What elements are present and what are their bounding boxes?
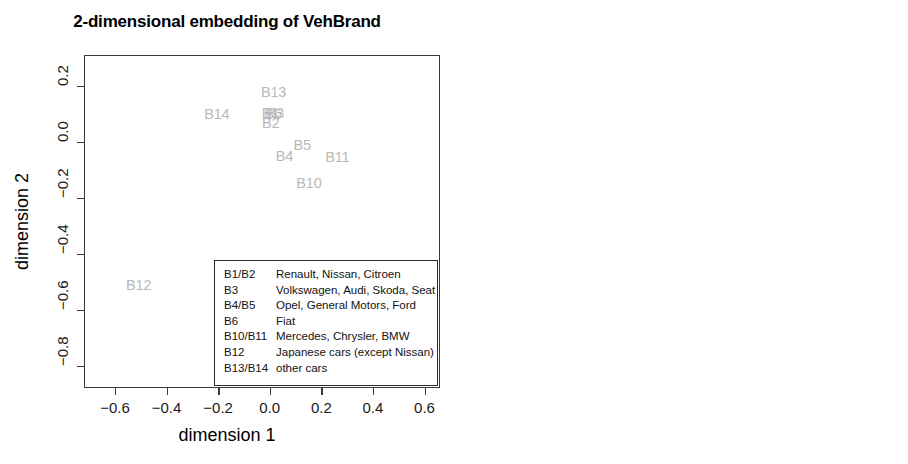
panel-vehbrand: 2-dimensional embedding of VehBrand dime…	[0, 0, 454, 464]
xaxis-tick	[167, 388, 168, 395]
xaxis-tick-label: −0.2	[203, 399, 233, 416]
xaxis-tick	[425, 388, 426, 395]
xaxis-tick	[373, 388, 374, 395]
legend-description: Opel, General Motors, Ford	[276, 298, 416, 314]
yaxis-tick	[77, 310, 84, 311]
data-point-label: B14	[204, 106, 229, 122]
data-point-label: B2	[262, 115, 279, 131]
yaxis-title-vehbrand: dimension 2	[12, 55, 33, 388]
legend-row: B1/B2Renault, Nissan, Citroen	[224, 267, 429, 283]
data-point-label: B10	[296, 175, 321, 191]
yaxis-tick	[77, 142, 84, 143]
legend-row: B6Fiat	[224, 314, 429, 330]
data-point-label: B5	[294, 137, 311, 153]
legend-description: Mercedes, Chrysler, BMW	[276, 329, 410, 345]
yaxis-tick	[77, 366, 84, 367]
legend-key: B6	[224, 314, 276, 330]
xaxis-title-vehbrand: dimension 1	[0, 425, 454, 446]
data-point-label: B11	[325, 149, 349, 165]
xaxis-tick-label: −0.4	[152, 399, 182, 416]
data-point-label: B13	[261, 84, 286, 100]
legend-row: B4/B5Opel, General Motors, Ford	[224, 298, 429, 314]
xaxis-tick	[115, 388, 116, 395]
legend-row: B10/B11Mercedes, Chrysler, BMW	[224, 329, 429, 345]
xaxis-tick	[218, 388, 219, 395]
legend-key: B13/B14	[224, 361, 276, 377]
xaxis-tick-label: 0.4	[362, 399, 383, 416]
xaxis-tick-label: 0.2	[311, 399, 332, 416]
xaxis-tick	[270, 388, 271, 395]
legend-row: B12Japanese cars (except Nissan)	[224, 345, 429, 361]
yaxis-tick	[77, 254, 84, 255]
legend-description: other cars	[276, 361, 327, 377]
xaxis-tick	[321, 388, 322, 395]
legend-description: Volkswagen, Audi, Skoda, Seat	[276, 283, 435, 299]
legend-description: Renault, Nissan, Citroen	[276, 267, 401, 283]
xaxis-tick-label: 0.6	[414, 399, 435, 416]
figure-root: 2-dimensional embedding of VehBrand dime…	[0, 0, 908, 464]
xaxis-tick-label: −0.6	[100, 399, 130, 416]
legend-key: B4/B5	[224, 298, 276, 314]
data-point-label: B4	[276, 148, 293, 164]
panel-title-vehbrand: 2-dimensional embedding of VehBrand	[0, 12, 454, 32]
legend-row: B13/B14other cars	[224, 361, 429, 377]
yaxis-tick	[77, 198, 84, 199]
xaxis-tick-label: 0.0	[259, 399, 280, 416]
legend-key: B10/B11	[224, 329, 276, 345]
legend-description: Japanese cars (except Nissan)	[276, 345, 434, 361]
legend-key: B12	[224, 345, 276, 361]
data-point-label: B12	[126, 277, 151, 293]
legend-row: B3Volkswagen, Audi, Skoda, Seat	[224, 283, 429, 299]
legend-key: B1/B2	[224, 267, 276, 283]
legend-box-vehbrand: B1/B2Renault, Nissan, CitroenB3Volkswage…	[214, 260, 438, 386]
legend-description: Fiat	[276, 314, 295, 330]
legend-key: B3	[224, 283, 276, 299]
yaxis-tick	[77, 86, 84, 87]
